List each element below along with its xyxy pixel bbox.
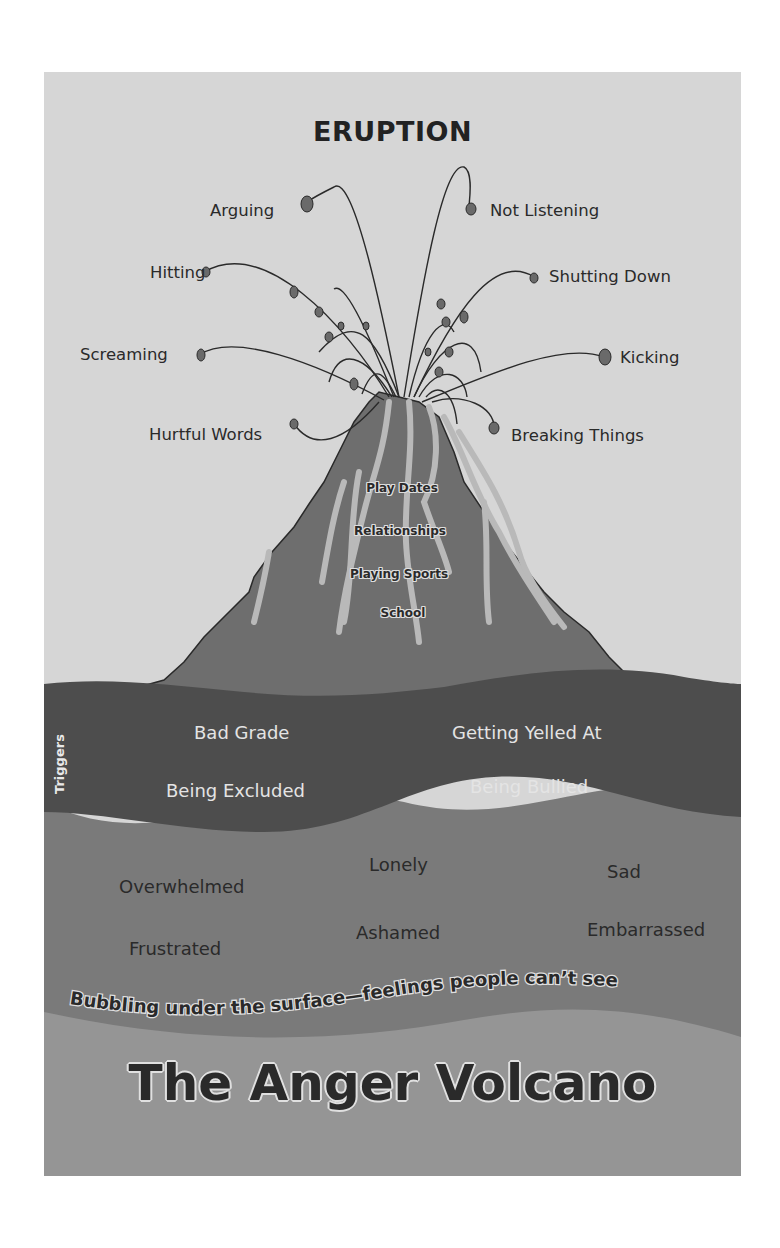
anger-volcano-poster: ERUPTION Arguing Hitting Screaming Hurtf… xyxy=(44,72,741,1176)
eruption-label-hitting: Hitting xyxy=(150,263,205,282)
eruption-label-not-listening: Not Listening xyxy=(490,201,599,220)
trigger-getting-yelled-at: Getting Yelled At xyxy=(452,722,602,743)
trigger-being-bullied: Being Bullied xyxy=(470,776,588,797)
feeling-embarrassed: Embarrassed xyxy=(587,919,705,940)
feelings-caption: Bubbling under the surface—feelings peop… xyxy=(44,952,741,1032)
trigger-bad-grade: Bad Grade xyxy=(194,722,289,743)
feeling-overwhelmed: Overwhelmed xyxy=(119,876,245,897)
eruption-label-arguing: Arguing xyxy=(210,201,274,220)
eruption-label-shutting-down: Shutting Down xyxy=(549,267,671,286)
feeling-ashamed: Ashamed xyxy=(356,922,440,943)
triggers-section-label: Triggers xyxy=(52,734,67,794)
feelings-caption-text: Bubbling under the surface—feelings peop… xyxy=(69,967,619,1019)
feeling-lonely: Lonely xyxy=(369,854,428,875)
eruption-label-screaming: Screaming xyxy=(80,345,168,364)
cone-item-play-dates: Play Dates xyxy=(366,481,438,495)
eruption-label-hurtful-words: Hurtful Words xyxy=(149,425,262,444)
feeling-sad: Sad xyxy=(607,861,641,882)
eruption-heading: ERUPTION xyxy=(44,116,741,147)
cone-item-relationships: Relationships xyxy=(354,524,446,538)
cone-item-school: School xyxy=(381,606,426,620)
trigger-being-excluded: Being Excluded xyxy=(166,780,305,801)
cone-item-playing-sports: Playing Sports xyxy=(350,567,448,581)
poster-title: The Anger Volcano xyxy=(44,1054,741,1112)
svg-text:Bubbling under the surface—fee: Bubbling under the surface—feelings peop… xyxy=(69,967,619,1019)
eruption-label-breaking-things: Breaking Things xyxy=(511,426,644,445)
eruption-label-kicking: Kicking xyxy=(620,348,680,367)
